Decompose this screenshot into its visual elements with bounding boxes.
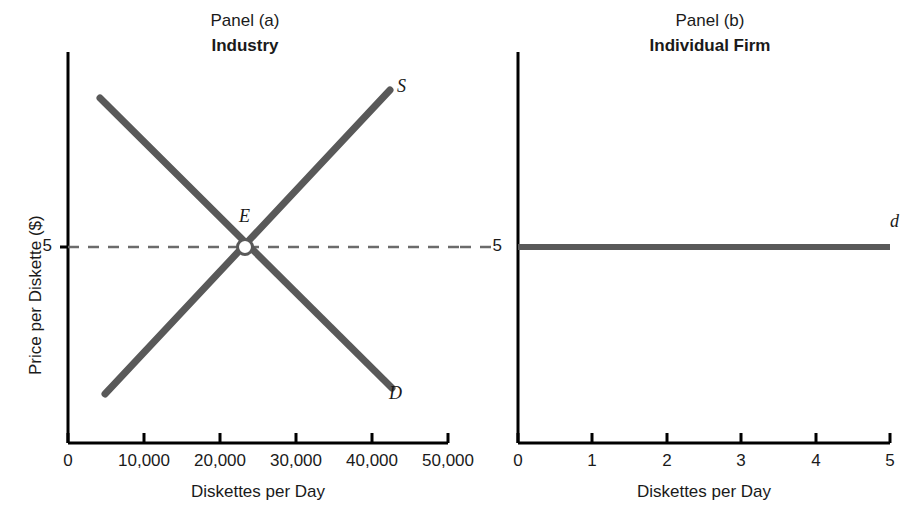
panel-a-x-axis-label: Diskettes per Day <box>158 482 358 502</box>
figure-root: Panel (a) Industry Price per Diskette ($… <box>0 0 917 514</box>
demand-curve-label: D <box>389 383 402 404</box>
panel-b-x-tick-label-5: 5 <box>870 451 910 471</box>
panel-b-plot <box>460 0 917 470</box>
equilibrium-point-label: E <box>239 206 250 227</box>
panel-b-y-tick-label-5: 5 <box>468 236 502 256</box>
panel-a-x-tick-label-0: 0 <box>48 451 88 471</box>
panel-b-x-tick-label-2: 2 <box>647 451 687 471</box>
supply-curve-label: S <box>397 76 406 97</box>
panel-b-x-tick-label-4: 4 <box>796 451 836 471</box>
panel-b-x-tick-label-3: 3 <box>721 451 761 471</box>
panel-a-y-tick-label-5: 5 <box>18 236 52 256</box>
panel-a-x-tick-label-20000: 20,000 <box>180 451 260 471</box>
equilibrium-point-marker <box>238 240 253 255</box>
panel-b-x-axis-label: Diskettes per Day <box>604 482 804 502</box>
firm-demand-curve-label: d <box>890 211 899 232</box>
panel-b-x-tick-label-1: 1 <box>572 451 612 471</box>
panel-a-x-tick-label-30000: 30,000 <box>256 451 336 471</box>
panel-b-x-tick-label-0: 0 <box>498 451 538 471</box>
panel-a-x-tick-label-40000: 40,000 <box>332 451 412 471</box>
panel-a-x-tick-label-10000: 10,000 <box>104 451 184 471</box>
